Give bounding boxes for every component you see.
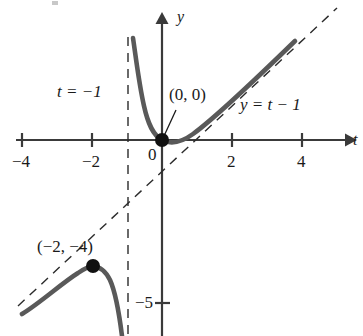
local-max-point-label: (−2, −4) [37,238,93,255]
origin-point-label: (0, 0) [169,86,206,103]
x-tick-label-4: 4 [297,153,306,170]
x-axis-label: t [353,132,357,148]
origin-label-leader-line [164,110,176,136]
marked-point-origin [155,133,169,147]
x-tick-label-2: 2 [227,153,236,170]
oblique-asymptote-label: y = t − 1 [240,96,301,113]
x-tick-label-0: 0 [148,146,157,163]
marked-point-local-max [86,259,100,273]
y-axis-label: y [177,9,184,25]
axis-group [16,12,357,336]
curve-left-branch [22,267,122,336]
x-tick-label--2: −2 [82,153,100,170]
vertical-asymptote-label: t = −1 [57,83,102,100]
oblique-asymptote-line [18,8,337,306]
graph-figure: y t −4 −2 0 2 4 −5 t = −1 (0, 0) y = t −… [0,0,363,336]
x-tick-label--4: −4 [12,153,30,170]
y-tick-label--5: −5 [135,294,153,311]
curve-right-branch [133,38,295,142]
plot-canvas [0,0,363,336]
y-axis-arrowhead [156,12,169,24]
